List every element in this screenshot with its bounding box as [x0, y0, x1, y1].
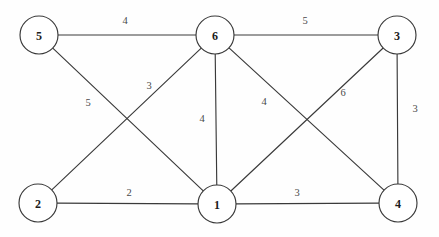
graph-edge-2-6	[52, 48, 201, 190]
node-label-3: 3	[394, 29, 400, 43]
edge-weight-1-4: 3	[294, 187, 299, 198]
edge-weight-3-4: 3	[412, 103, 417, 114]
edge-weight-6-3: 5	[302, 15, 307, 26]
graph-node-2[interactable]: 2	[19, 184, 57, 222]
graph-node-5[interactable]: 5	[20, 16, 58, 54]
edge-weight-6-1: 4	[199, 113, 205, 124]
nodes-layer: 563214	[19, 16, 417, 223]
edge-weight-5-6: 4	[122, 15, 128, 26]
graph-svg-canvas: 4553446323 563214	[0, 0, 439, 237]
edge-weights-layer: 4553446323	[85, 15, 417, 198]
edge-weight-1-3: 6	[340, 87, 345, 98]
graph-edge-2-1	[57, 203, 198, 204]
graph-node-1[interactable]: 1	[198, 185, 236, 223]
node-label-2: 2	[35, 197, 41, 211]
graph-node-6[interactable]: 6	[196, 16, 234, 54]
graph-edge-1-4	[236, 203, 379, 204]
node-label-1: 1	[214, 198, 220, 212]
edge-weight-2-1: 2	[126, 187, 131, 198]
node-label-5: 5	[36, 29, 42, 43]
node-label-4: 4	[395, 197, 401, 211]
edge-weight-2-6: 3	[146, 80, 151, 91]
node-label-6: 6	[212, 29, 218, 43]
graph-edge-1-3	[231, 48, 383, 191]
edge-weight-5-1: 5	[85, 97, 90, 108]
graph-diagram: 4553446323 563214	[0, 0, 439, 237]
edges-layer	[52, 35, 398, 204]
edge-weight-6-4: 4	[261, 96, 267, 107]
graph-edge-3-4	[397, 54, 398, 184]
graph-node-4[interactable]: 4	[379, 184, 417, 222]
graph-edge-5-1	[53, 48, 203, 191]
graph-edge-6-1	[215, 54, 217, 185]
graph-node-3[interactable]: 3	[378, 16, 416, 54]
